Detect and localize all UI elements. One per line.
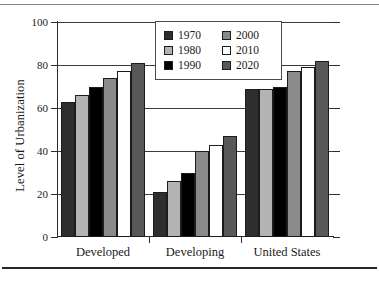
- y-axis-tick-label: 60: [37, 103, 48, 114]
- bar: [195, 151, 209, 237]
- legend-label: 2000: [236, 30, 259, 42]
- y-axis-tick-right: [333, 65, 340, 66]
- bar: [223, 136, 237, 237]
- legend-label: 1970: [178, 30, 201, 42]
- legend-item: 1990: [164, 58, 216, 73]
- y-axis-tick-right: [333, 237, 340, 238]
- y-axis-tick-right: [333, 194, 340, 195]
- bar: [131, 63, 145, 237]
- y-axis-tick-right: [333, 108, 340, 109]
- bar: [103, 78, 117, 237]
- legend-item: 2020: [222, 58, 274, 73]
- y-axis-tick-label: 0: [43, 232, 49, 243]
- y-axis-tick-right: [333, 22, 340, 23]
- top-divider-rule: [0, 4, 379, 5]
- legend-swatch-1970: [164, 31, 173, 40]
- legend-label: 2010: [236, 45, 259, 57]
- x-axis-tick-label: Developed: [57, 245, 149, 260]
- legend-item: 2010: [222, 43, 274, 58]
- bar: [75, 95, 89, 237]
- bottom-divider-rule: [2, 267, 377, 269]
- bar: [301, 67, 315, 237]
- legend-swatch-2010: [222, 46, 231, 55]
- legend-swatch-1990: [164, 61, 173, 70]
- bar: [259, 89, 273, 237]
- x-axis-tick-label: Developing: [149, 245, 241, 260]
- y-axis-title-text: Level of Urbanization: [13, 79, 28, 191]
- bar: [181, 173, 195, 238]
- y-axis-tick-label: 80: [37, 60, 48, 71]
- legend-item: 1980: [164, 43, 216, 58]
- x-axis-separator-tick: [149, 237, 150, 243]
- legend-label: 1980: [178, 45, 201, 57]
- legend-item: 2000: [222, 28, 274, 43]
- bar: [209, 145, 223, 237]
- chart-figure: Level of Urbanization 100806040200 Devel…: [0, 0, 379, 289]
- x-axis-tick-label: United States: [241, 245, 333, 260]
- bar: [153, 192, 167, 237]
- bar: [117, 71, 131, 237]
- bar: [287, 71, 301, 237]
- bar: [167, 181, 181, 237]
- legend-swatch-2020: [222, 61, 231, 70]
- y-axis-tick-label: 40: [37, 146, 48, 157]
- bar-group: [57, 22, 149, 237]
- chart-legend: 197020001980201019902020: [155, 21, 282, 80]
- bar: [89, 87, 103, 238]
- legend-label: 2020: [236, 60, 259, 72]
- y-axis-tick-label: 20: [37, 189, 48, 200]
- bar: [61, 102, 75, 237]
- bar: [315, 61, 329, 237]
- legend-swatch-2000: [222, 31, 231, 40]
- y-axis-tick-label: 100: [32, 17, 49, 28]
- bar: [273, 87, 287, 238]
- x-axis-separator-tick: [241, 237, 242, 243]
- y-axis-title: Level of Urbanization: [12, 40, 28, 230]
- legend-label: 1990: [178, 60, 201, 72]
- bar: [245, 89, 259, 237]
- y-axis-tick: [51, 237, 57, 238]
- legend-swatch-1980: [164, 46, 173, 55]
- y-axis-tick-right: [333, 151, 340, 152]
- legend-item: 1970: [164, 28, 216, 43]
